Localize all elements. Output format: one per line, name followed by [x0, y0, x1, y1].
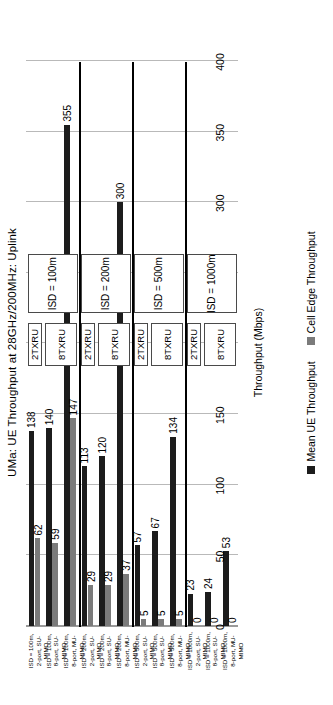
y-axis-tick: 350: [214, 124, 226, 142]
bar-cell-edge-throughput: [176, 619, 182, 626]
legend-swatch: [307, 466, 315, 474]
isd-annotation-box: ISD = 100m: [28, 254, 78, 313]
txru-annotation-box: 8TXRU: [204, 323, 236, 365]
bar-cell-edge-throughput: [123, 574, 129, 626]
isd-annotation-box: ISD = 500m: [134, 254, 184, 313]
bar-mean-ue-throughput: [82, 466, 88, 626]
legend-label: Cell Edge Throughput: [305, 231, 317, 333]
chart-root: UMa: UE Throughput at 28GHz/200MHz: Upli…: [0, 0, 333, 705]
legend-swatch: [307, 337, 315, 345]
isd-annotation-box: ISD = 1000m: [187, 254, 237, 313]
y-axis-tick: 400: [214, 53, 226, 71]
y-axis-tick: 100: [214, 477, 226, 495]
bar-mean-ue-throughput: [223, 551, 229, 626]
txru-annotation-box: 2TXRU: [134, 323, 149, 365]
chart-legend: Mean UE ThroughputCell Edge Throughput: [305, 0, 317, 705]
y-axis-tick: 150: [214, 406, 226, 424]
txru-annotation-box: 2TXRU: [81, 323, 96, 365]
bar-value-label: 5: [173, 610, 184, 619]
bar-value-label: 37: [120, 560, 131, 574]
bar-value-label: 29: [103, 571, 114, 585]
category-label: ISD = 1000m, 8-port, MU- MIMO: [221, 629, 244, 673]
group-separator: [185, 62, 187, 627]
group-separator: [79, 62, 81, 627]
legend-item: Mean UE Throughput: [305, 361, 317, 473]
legend-label: Mean UE Throughput: [305, 361, 317, 461]
isd-annotation-box: ISD = 200m: [81, 254, 131, 313]
bar-value-label: 0: [191, 617, 202, 626]
bar-value-label: 0: [226, 617, 237, 626]
bar-cell-edge-throughput: [105, 585, 111, 626]
txru-annotation-box: 8TXRU: [45, 323, 77, 365]
bar-value-label: 147: [67, 399, 78, 419]
bar-mean-ue-throughput: [46, 428, 52, 626]
txru-annotation-box: 8TXRU: [151, 323, 183, 365]
legend-item: Cell Edge Throughput: [305, 231, 317, 345]
bar-value-label: 29: [85, 571, 96, 585]
rotated-chart-wrapper: UMa: UE Throughput at 28GHz/200MHz: Upli…: [0, 0, 333, 705]
bar-value-label: 62: [32, 524, 43, 538]
bar-cell-edge-throughput: [158, 619, 164, 626]
bar-mean-ue-throughput: [64, 125, 70, 626]
bar-mean-ue-throughput: [99, 457, 105, 627]
bar-cell-edge-throughput: [52, 543, 58, 626]
txru-annotation-box: 2TXRU: [187, 323, 202, 365]
y-axis-tick: 50: [214, 551, 226, 563]
bar-value-label: 5: [138, 610, 149, 619]
txru-annotation-box: 8TXRU: [98, 323, 130, 365]
bar-cell-edge-throughput: [141, 619, 147, 626]
bar-cell-edge-throughput: [35, 538, 41, 626]
txru-annotation-box: 2TXRU: [28, 323, 43, 365]
y-axis-tick: 300: [214, 194, 226, 212]
bar-cell-edge-throughput: [88, 585, 94, 626]
bar-value-label: 5: [156, 610, 167, 619]
group-separator: [132, 62, 134, 627]
bar-cell-edge-throughput: [70, 418, 76, 626]
bar-mean-ue-throughput: [170, 437, 176, 626]
chart-title: UMa: UE Throughput at 28GHz/200MHz: Upli…: [6, 0, 18, 705]
y-axis-title: Throughput (Mbps): [252, 0, 264, 705]
bar-value-label: 59: [50, 529, 61, 543]
